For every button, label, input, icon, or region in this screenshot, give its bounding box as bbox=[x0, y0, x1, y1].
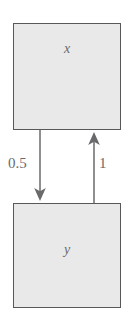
arrowhead-up-icon bbox=[88, 132, 100, 145]
node-x-label: x bbox=[64, 42, 70, 56]
arrowhead-down-icon bbox=[34, 188, 46, 201]
diagram-canvas: x y 0.5 1 bbox=[0, 0, 135, 330]
node-x[interactable]: x bbox=[13, 23, 121, 130]
node-y[interactable]: y bbox=[13, 203, 121, 308]
node-y-label: y bbox=[64, 243, 70, 257]
edge-weight-x-to-y: 0.5 bbox=[8, 156, 27, 171]
edge-weight-y-to-x: 1 bbox=[99, 156, 107, 171]
edge-x-to-y-arrow[interactable] bbox=[34, 130, 46, 201]
